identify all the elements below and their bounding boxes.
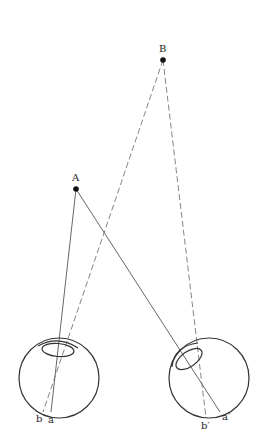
right-pupil <box>172 344 205 373</box>
left-eye <box>19 338 99 418</box>
point-B-dot <box>160 57 166 63</box>
line-B-to-b-prime <box>163 60 206 418</box>
line-B-to-b <box>43 60 163 412</box>
label-B: B <box>159 43 166 54</box>
line-A-to-a-prime <box>76 189 220 412</box>
label-A: A <box>71 172 80 183</box>
point-A-dot <box>73 186 79 192</box>
left-eyeball <box>19 338 99 418</box>
binocular-diagram: B A b a b′ a′ <box>0 0 253 447</box>
label-a: a <box>48 414 54 425</box>
right-eye <box>169 338 249 418</box>
label-b-prime: b′ <box>201 420 210 431</box>
label-a-prime: a′ <box>222 411 231 422</box>
label-b: b <box>36 413 42 424</box>
